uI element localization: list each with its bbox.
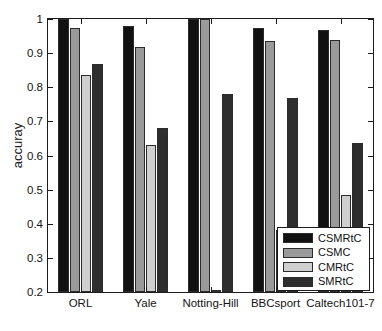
bar-notting-hill-cmrtc xyxy=(211,290,221,292)
bar-orl-smrtc xyxy=(92,64,102,292)
chart-legend: CSMRtCCSMCCMRtCSMRtC xyxy=(277,227,370,291)
legend-swatch-icon xyxy=(283,233,313,243)
x-axis-tick-top xyxy=(211,19,212,24)
y-axis-tick xyxy=(48,156,53,157)
y-axis-tick xyxy=(48,53,53,54)
x-axis-tick-label: Yale xyxy=(134,297,156,309)
bar-yale-csmc xyxy=(135,47,145,292)
legend-item-label: SMRtC xyxy=(318,276,353,287)
y-axis-tick-label: 0.9 xyxy=(3,47,43,59)
y-axis-tick xyxy=(48,292,53,293)
legend-item-smrtc[interactable]: SMRtC xyxy=(281,275,366,289)
y-axis-tick-label: 0.5 xyxy=(3,184,43,196)
bar-notting-hill-csmrtc xyxy=(188,19,198,292)
y-axis-tick-right xyxy=(368,121,373,122)
legend-swatch-icon xyxy=(283,248,313,258)
x-axis-tick-top xyxy=(81,19,82,24)
x-axis-tick-label: ORL xyxy=(69,297,93,309)
y-axis-tick-right xyxy=(368,224,373,225)
x-axis-tick-label: Notting-Hill xyxy=(182,297,238,309)
bar-yale-cmrtc xyxy=(146,145,156,292)
bar-bbcsport-csmc xyxy=(265,41,275,293)
legend-item-cmrtc[interactable]: CMRtC xyxy=(281,260,366,274)
y-axis-tick xyxy=(48,121,53,122)
y-axis-tick-label: 1 xyxy=(3,13,43,25)
legend-item-label: CMRtC xyxy=(318,262,354,273)
legend-swatch-icon xyxy=(283,277,313,287)
y-axis-tick-label: 0.8 xyxy=(3,81,43,93)
y-axis-tick-right xyxy=(368,53,373,54)
figure-canvas: accuray CSMRtCCSMCCMRtCSMRtC 0.20.30.40.… xyxy=(0,0,382,331)
y-axis-tick xyxy=(48,190,53,191)
bar-yale-csmrtc xyxy=(123,26,133,292)
bar-orl-cmrtc xyxy=(81,75,91,292)
bar-orl-csmc xyxy=(70,28,80,292)
y-axis-tick xyxy=(48,19,53,20)
x-axis-tick-label: Caltech101-7 xyxy=(306,297,374,309)
x-axis-tick xyxy=(81,287,82,292)
x-axis-tick-top xyxy=(341,19,342,24)
bar-notting-hill-csmc xyxy=(200,19,210,292)
y-axis-tick-label: 0.4 xyxy=(3,218,43,230)
y-axis-tick-right xyxy=(368,190,373,191)
y-axis-tick-right xyxy=(368,292,373,293)
bar-bbcsport-csmrtc xyxy=(253,28,263,292)
bar-orl-csmrtc xyxy=(58,19,68,292)
legend-item-label: CSMC xyxy=(318,247,350,258)
y-axis-tick-right xyxy=(368,156,373,157)
y-axis-tick-label: 0.7 xyxy=(3,115,43,127)
x-axis-tick xyxy=(211,287,212,292)
x-axis-tick-label: BBCsport xyxy=(251,297,300,309)
legend-swatch-icon xyxy=(283,262,313,272)
y-axis-tick-label: 0.3 xyxy=(3,252,43,264)
y-axis-tick-right xyxy=(368,87,373,88)
y-axis-tick xyxy=(48,224,53,225)
x-axis-tick-top xyxy=(146,19,147,24)
y-axis-tick-right xyxy=(368,19,373,20)
bar-notting-hill-smrtc xyxy=(222,94,232,292)
legend-item-label: CSMRtC xyxy=(318,233,361,244)
bar-yale-smrtc xyxy=(157,128,167,292)
legend-item-csmc[interactable]: CSMC xyxy=(281,246,366,260)
y-axis-tick-label: 0.2 xyxy=(3,286,43,298)
legend-item-csmrtc[interactable]: CSMRtC xyxy=(281,231,366,245)
x-axis-tick-top xyxy=(276,19,277,24)
y-axis-tick xyxy=(48,258,53,259)
y-axis-tick xyxy=(48,87,53,88)
x-axis-tick xyxy=(146,287,147,292)
y-axis-tick-label: 0.6 xyxy=(3,150,43,162)
